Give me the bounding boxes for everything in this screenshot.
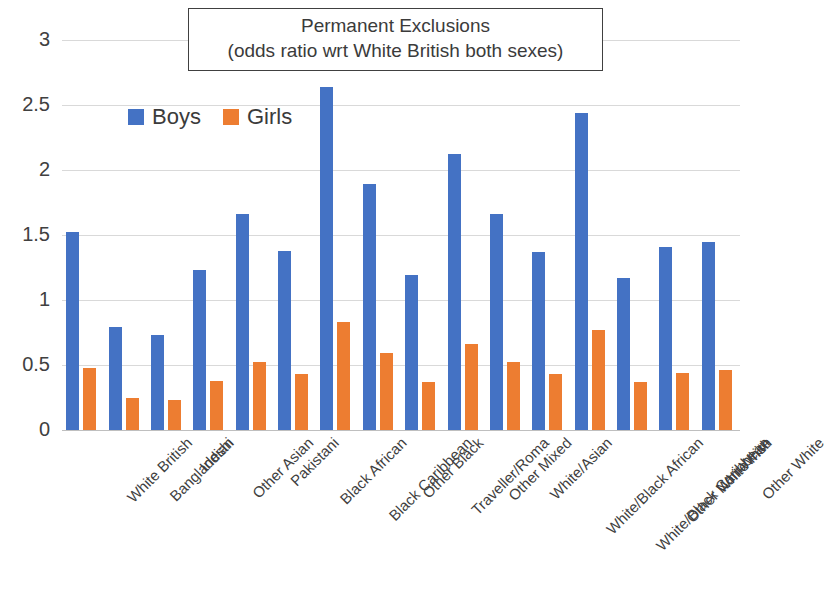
bar-boys <box>193 270 206 430</box>
bar-girls <box>83 368 96 430</box>
bar-group <box>316 40 358 430</box>
legend-item-girls: Girls <box>223 106 292 128</box>
bar-girls <box>719 370 732 430</box>
bar-group <box>613 40 655 430</box>
bar-boys <box>659 247 672 430</box>
chart-title-line-1: Permanent Exclusions <box>195 14 596 39</box>
bar-boys <box>66 232 79 430</box>
bar-group <box>528 40 570 430</box>
bar-group <box>232 40 274 430</box>
chart-legend: BoysGirls <box>128 106 292 128</box>
chart-title-line-2: (odds ratio wrt White British both sexes… <box>195 39 596 64</box>
legend-swatch-icon <box>223 109 239 125</box>
legend-label: Girls <box>247 106 292 128</box>
bar-girls <box>337 322 350 430</box>
bar-boys <box>363 184 376 430</box>
bar-girls <box>380 353 393 430</box>
bar-girls <box>676 373 689 430</box>
bar-girls <box>126 398 139 431</box>
bar-girls <box>507 362 520 430</box>
gridline-0 <box>62 430 740 431</box>
y-tick-label-1.5: 1.5 <box>4 224 50 244</box>
bar-girls <box>295 374 308 430</box>
bar-girls <box>422 382 435 430</box>
bar-group <box>401 40 443 430</box>
bar-boys <box>702 242 715 431</box>
bar-boys <box>490 214 503 430</box>
y-tick-label-0: 0 <box>4 419 50 439</box>
bar-boys <box>405 275 418 430</box>
y-tick-label-0.5: 0.5 <box>4 354 50 374</box>
bar-girls <box>253 362 266 430</box>
bar-boys <box>278 251 291 430</box>
bar-girls <box>168 400 181 430</box>
bar-group <box>655 40 697 430</box>
bar-girls <box>210 381 223 430</box>
bar-girls <box>549 374 562 430</box>
y-tick-label-1: 1 <box>4 289 50 309</box>
bar-boys <box>320 87 333 430</box>
y-tick-label-2: 2 <box>4 159 50 179</box>
bar-group <box>104 40 146 430</box>
x-axis-label: Indian <box>196 434 237 475</box>
bar-boys <box>109 327 122 430</box>
chart-title-box: Permanent Exclusions (odds ratio wrt Whi… <box>188 8 603 71</box>
x-axis-category-labels: White BritishBangladeshiIndianOther Asia… <box>62 434 740 604</box>
bar-group <box>486 40 528 430</box>
legend-item-boys: Boys <box>128 106 201 128</box>
bar-boys <box>617 278 630 430</box>
plot-area <box>62 40 740 430</box>
bar-girls <box>592 330 605 430</box>
bar-group <box>62 40 104 430</box>
bar-boys <box>575 113 588 430</box>
y-tick-label-2.5: 2.5 <box>4 94 50 114</box>
bar-boys <box>236 214 249 430</box>
bar-group <box>571 40 613 430</box>
bar-group <box>698 40 740 430</box>
bar-girls <box>634 382 647 430</box>
legend-swatch-icon <box>128 109 144 125</box>
bar-boys <box>448 154 461 430</box>
bar-group <box>443 40 485 430</box>
bar-boys <box>151 335 164 430</box>
bar-group <box>359 40 401 430</box>
bar-boys <box>532 252 545 430</box>
bar-girls <box>465 344 478 430</box>
bar-group <box>147 40 189 430</box>
bar-group <box>189 40 231 430</box>
y-tick-label-3: 3 <box>4 29 50 49</box>
legend-label: Boys <box>152 106 201 128</box>
bar-group <box>274 40 316 430</box>
